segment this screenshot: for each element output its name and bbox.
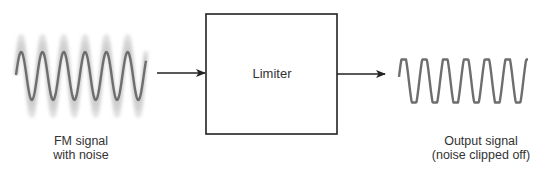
output-caption-line1: Output signal	[432, 134, 530, 148]
output-clipped-waveform	[399, 60, 528, 103]
input-caption-line2: with noise	[53, 148, 109, 162]
limiter-diagram: Limiter FM signal with noise Output sign…	[0, 0, 546, 171]
output-caption-line2: (noise clipped off)	[432, 148, 530, 162]
output-signal-caption: Output signal (noise clipped off)	[432, 134, 530, 162]
limiter-label: Limiter	[252, 66, 291, 81]
input-signal-caption: FM signal with noise	[53, 134, 109, 162]
input-noise-band	[16, 37, 146, 115]
input-caption-line1: FM signal	[53, 134, 109, 148]
